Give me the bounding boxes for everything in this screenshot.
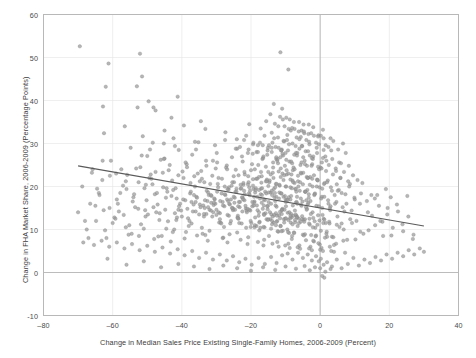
scatter-point	[215, 161, 219, 165]
scatter-point	[215, 208, 219, 212]
scatter-point	[312, 174, 316, 178]
scatter-point	[269, 227, 273, 231]
scatter-point	[407, 248, 411, 252]
scatter-point	[299, 197, 303, 201]
scatter-point	[167, 168, 171, 172]
scatter-point	[170, 194, 174, 198]
scatter-point	[308, 269, 312, 273]
scatter-point	[253, 223, 256, 227]
scatter-point	[139, 165, 143, 169]
scatter-point	[279, 175, 283, 179]
scatter-point	[267, 234, 271, 238]
scatter-point	[333, 193, 337, 197]
scatter-point	[238, 145, 242, 149]
scatter-point	[342, 239, 346, 243]
scatter-point	[278, 115, 282, 119]
scatter-point	[213, 197, 217, 201]
scatter-point	[148, 148, 152, 152]
scatter-point	[173, 211, 177, 215]
scatter-point	[236, 205, 240, 209]
scatter-point	[181, 198, 185, 202]
scatter-point	[261, 266, 265, 270]
scatter-point	[288, 211, 292, 215]
scatter-point	[146, 213, 150, 217]
scatter-point	[117, 210, 121, 214]
x-tick-label: –40	[176, 321, 188, 330]
scatter-point	[221, 236, 225, 240]
scatter-point	[379, 219, 383, 223]
scatter-point	[141, 134, 145, 138]
scatter-point	[310, 164, 314, 168]
scatter-point	[396, 210, 400, 214]
scatter-point	[183, 254, 187, 257]
scatter-point	[279, 51, 283, 55]
scatter-point	[332, 139, 336, 143]
scatter-point	[194, 148, 198, 152]
scatter-point	[182, 176, 186, 180]
scatter-point	[282, 221, 286, 225]
scatter-point	[314, 254, 318, 258]
scatter-point	[223, 185, 227, 189]
scatter-point	[275, 182, 279, 186]
scatter-point	[298, 180, 302, 184]
scatter-point	[313, 266, 317, 270]
scatter-point	[306, 149, 310, 153]
scatter-point	[106, 257, 110, 261]
scatter-point	[212, 201, 216, 205]
scatter-point	[255, 177, 259, 181]
scatter-point	[146, 154, 150, 158]
scatter-point	[239, 183, 243, 187]
scatter-point	[116, 202, 120, 206]
scatter-point	[154, 211, 158, 215]
scatter-point	[176, 95, 180, 99]
scatter-point	[303, 217, 307, 221]
scatter-point	[318, 266, 322, 270]
scatter-point	[284, 205, 288, 209]
scatter-point	[341, 205, 345, 209]
scatter-point	[350, 209, 354, 213]
scatter-point	[200, 226, 204, 230]
scatter-point	[346, 262, 350, 266]
scatter-point	[286, 199, 290, 203]
scatter-point	[287, 68, 291, 72]
scatter-point	[266, 218, 270, 222]
scatter-point	[231, 254, 235, 258]
scatter-point	[98, 193, 102, 197]
scatter-point	[248, 186, 252, 190]
scatter-point	[257, 211, 261, 215]
scatter-point	[168, 163, 172, 167]
scatter-point	[263, 134, 267, 138]
scatter-point	[328, 222, 332, 226]
scatter-point	[125, 187, 129, 191]
scatter-point	[275, 195, 279, 199]
scatter-point	[85, 228, 89, 232]
scatter-point	[265, 180, 269, 184]
scatter-point	[203, 206, 207, 210]
scatter-point	[418, 247, 422, 251]
scatter-point	[193, 174, 197, 178]
scatter-point	[294, 144, 298, 148]
scatter-point	[288, 118, 292, 122]
scatter-point	[319, 257, 323, 261]
scatter-point	[272, 176, 276, 180]
scatter-point	[136, 106, 140, 110]
scatter-point	[365, 199, 369, 203]
scatter-point	[277, 125, 281, 129]
scatter-point	[395, 203, 399, 207]
scatter-point	[92, 243, 96, 247]
scatter-point	[303, 162, 307, 166]
scatter-point	[252, 141, 256, 145]
scatter-point	[251, 184, 255, 188]
scatter-point	[168, 252, 172, 256]
scatter-point	[273, 268, 277, 272]
scatter-point	[237, 260, 241, 264]
scatter-point	[312, 216, 316, 220]
scatter-point	[356, 178, 360, 182]
scatter-point	[262, 213, 266, 217]
scatter-point	[298, 247, 302, 251]
scatter-point	[359, 192, 363, 196]
scatter-point	[335, 258, 339, 262]
scatter-point	[347, 164, 351, 168]
scatter-point	[292, 231, 296, 235]
scatter-point	[226, 187, 230, 191]
